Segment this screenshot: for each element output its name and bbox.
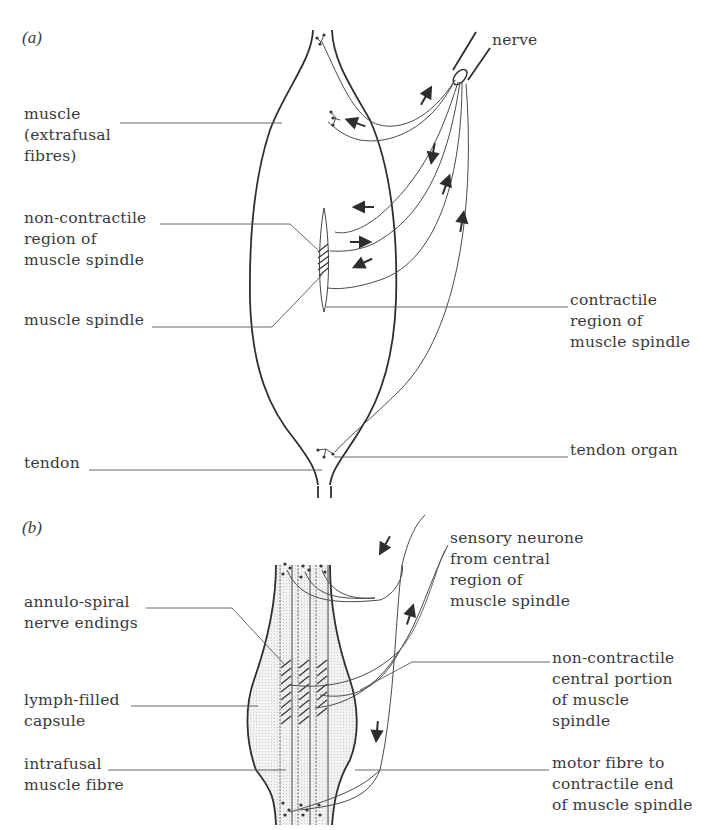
tendon-organ-drawing (316, 448, 334, 458)
muscle-outline-left (250, 30, 318, 485)
top-nerve-ending (315, 33, 325, 45)
label-contractile-region: contractile region of muscle spindle (570, 290, 690, 353)
arrows-panel-a (345, 85, 469, 272)
label-muscle-spindle: muscle spindle (24, 310, 144, 331)
arrows-panel-b (371, 534, 418, 742)
label-tendon: tendon (24, 453, 80, 474)
label-muscle-extrafusal: muscle (extrafusal fibres) (24, 104, 111, 167)
muscle-outline-right (330, 30, 396, 485)
motor-fibre-line (402, 515, 425, 565)
panel-a-drawing (89, 30, 568, 498)
label-non-contractile-central: non-contractile central portion of muscl… (552, 648, 674, 732)
lymph-capsule-shape (247, 565, 356, 825)
label-nerve: nerve (492, 30, 538, 51)
label-sensory-neurone: sensory neurone from central region of m… (450, 528, 584, 612)
label-annulo-spiral: annulo-spiral nerve endings (24, 592, 138, 634)
label-non-contractile-region: non-contractile region of muscle spindle (24, 208, 146, 271)
label-tendon-organ: tendon organ (570, 440, 678, 461)
label-intrafusal-fibre: intrafusal muscle fibre (24, 754, 124, 796)
panel-label-a: (a) (22, 28, 42, 48)
muscle-spindle-figure: (a) (b) nerve muscle (extrafusal fibres)… (0, 0, 710, 830)
label-lymph-capsule: lymph-filled capsule (24, 690, 120, 732)
label-motor-fibre: motor fibre to contractile end of muscle… (552, 753, 693, 816)
muscle-spindle (318, 208, 329, 312)
nerve-trunk (450, 32, 490, 87)
leaders-panel-a (89, 123, 568, 470)
panel-label-b: (b) (22, 518, 42, 538)
